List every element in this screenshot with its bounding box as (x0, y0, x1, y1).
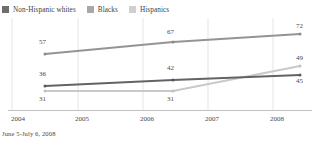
chart-legend: Non-Hispanic whites Blacks Hispanics (2, 3, 180, 16)
x-axis: 2004 2005 2006 2007 2008 (0, 113, 315, 127)
legend-square-icon (2, 6, 9, 13)
x-tick-2006: 2006 (140, 115, 154, 123)
series-line-non-hispanic-whites (45, 34, 300, 54)
legend-label: Hispanics (140, 6, 169, 14)
data-label-blacks-2006: 42 (167, 64, 174, 72)
x-tick-2007: 2007 (205, 115, 219, 123)
chart-svg (0, 18, 315, 114)
x-tick-2004: 2004 (11, 115, 25, 123)
legend-label: Non-Hispanic whites (13, 6, 76, 14)
data-label-whites-2004: 57 (39, 38, 46, 46)
chart-footnote: June 5-July 6, 2008 (2, 130, 56, 137)
x-tick-2008: 2008 (270, 115, 284, 123)
x-tick-2005: 2005 (75, 115, 89, 123)
legend-item-blacks: Blacks (87, 6, 118, 14)
legend-item-hispanics: Hispanics (129, 6, 169, 14)
gridlines (12, 18, 273, 110)
data-label-hispanics-2004: 31 (39, 95, 46, 103)
legend-item-non-hispanic-whites: Non-Hispanic whites (2, 6, 76, 14)
data-label-whites-2006: 67 (167, 28, 174, 36)
data-label-blacks-2008: 45 (296, 77, 303, 85)
legend-square-icon (87, 6, 94, 13)
chart-plot-area: 57 67 72 36 42 45 31 31 49 (0, 18, 315, 114)
data-label-hispanics-2008: 49 (296, 54, 303, 62)
data-label-blacks-2004: 36 (39, 70, 46, 78)
data-label-hispanics-2006: 31 (167, 95, 174, 103)
data-label-whites-2008: 72 (296, 22, 303, 30)
chart-figure: Non-Hispanic whites Blacks Hispanics (0, 0, 315, 144)
legend-square-icon (129, 6, 136, 13)
legend-label: Blacks (98, 6, 118, 14)
